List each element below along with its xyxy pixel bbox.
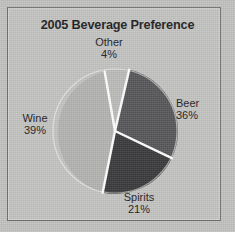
pie-label-spirits-name: Spirits xyxy=(124,191,155,203)
pie-label-beer: Beer 36% xyxy=(176,97,228,122)
pie-label-wine: Wine 39% xyxy=(8,112,62,137)
pie-label-other: Other 4% xyxy=(78,36,140,61)
pie-label-beer-percent: 36% xyxy=(176,109,228,121)
pie-label-wine-percent: 39% xyxy=(8,124,62,136)
chart-title: 2005 Beverage Preference xyxy=(7,17,228,32)
pie-label-wine-name: Wine xyxy=(22,112,47,124)
pie-label-spirits-percent: 21% xyxy=(104,203,174,215)
pie-graphic xyxy=(52,68,178,194)
pie-label-other-name: Other xyxy=(95,36,123,48)
pie-chart-figure: 2005 Beverage Preference Other 4% Beer xyxy=(0,0,235,232)
pie-label-beer-name: Beer xyxy=(176,97,199,109)
pie-label-spirits: Spirits 21% xyxy=(104,191,174,216)
pie-label-other-percent: 4% xyxy=(78,48,140,60)
